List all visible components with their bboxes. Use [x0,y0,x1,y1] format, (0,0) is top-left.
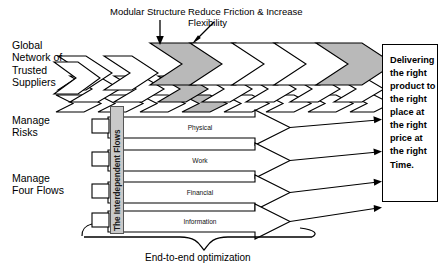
diagram-vector-layer: .chev { stroke: #000; stroke-width: 1.1;… [0,0,448,270]
label-manage-four-flows: Manage Four Flows [12,172,64,197]
annotation-reduce-friction: Reduce Friction & Increase Flexibility [188,6,303,28]
flow-label-physical: Physical [140,124,260,131]
label-manage-risks: Manage Risks [12,114,50,139]
vertical-band-interdependent-flows: The Interdependent Flows [110,106,124,234]
end-to-end-brace [84,237,312,250]
annotation-modular-structure: Modular Structure [110,6,186,17]
flow-label-information: Information [140,218,260,225]
label-global-network-of-trusted-suppliers: Global Network of Trusted Suppliers [12,39,62,89]
diagram-canvas: .chev { stroke: #000; stroke-width: 1.1;… [0,0,448,270]
vertical-band-label: The Interdependent Flows [113,130,122,231]
flow-source-boxes [92,119,109,227]
flow-right-hook [300,228,315,237]
flow-label-work: Work [140,157,260,164]
flow-convergence-lines [290,116,382,221]
annotation-arrow-modular [156,20,164,45]
outcome-box-delivering: Delivering the right product to the righ… [382,44,438,202]
flow-left-hook [82,224,92,236]
flow-label-financial: Financial [140,189,260,196]
caption-end-to-end-optimization: End-to-end optimization [145,252,251,264]
